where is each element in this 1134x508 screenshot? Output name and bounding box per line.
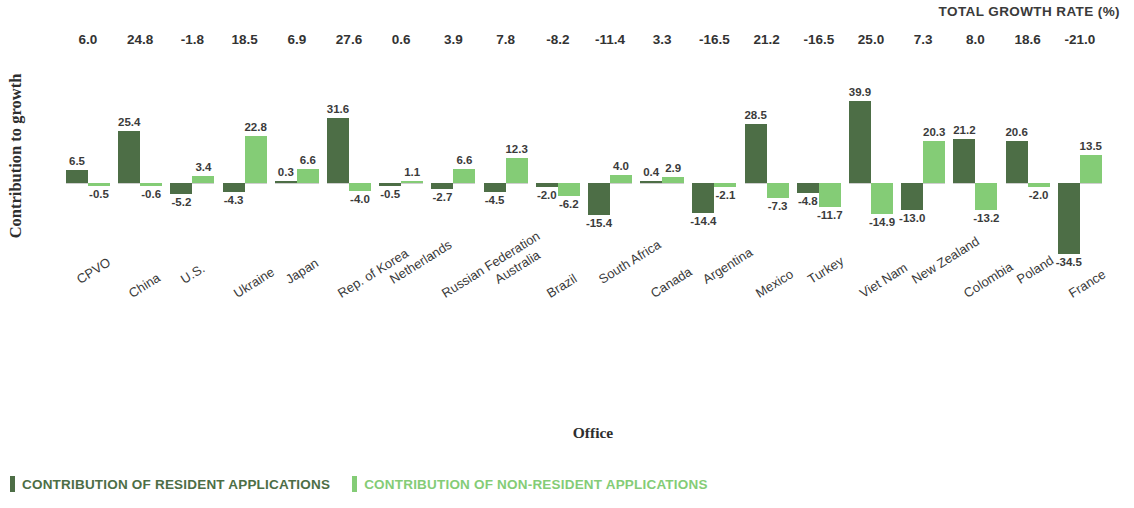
zero-baseline — [275, 183, 319, 184]
bar-group: 3.30.42.9 — [640, 24, 684, 272]
bar-non-resident[interactable] — [349, 183, 371, 191]
bar-resident[interactable] — [901, 183, 923, 210]
bar-group: -11.4-15.44.0 — [588, 24, 632, 272]
bar-label-resident: 28.5 — [738, 109, 774, 121]
bar-resident[interactable] — [431, 183, 453, 189]
bar-label-resident: -4.3 — [216, 194, 252, 206]
bar-group: -16.5-4.8-11.7 — [797, 24, 841, 272]
bar-label-resident: -5.2 — [163, 196, 199, 208]
bar-non-resident[interactable] — [140, 183, 162, 186]
bar-non-resident[interactable] — [767, 183, 789, 198]
total-growth-rate-value: -21.0 — [1058, 32, 1102, 47]
bar-group: 18.5-4.322.8 — [223, 24, 267, 272]
bar-non-resident[interactable] — [192, 176, 214, 183]
bar-non-resident[interactable] — [662, 177, 684, 183]
bar-label-non-resident: 12.3 — [499, 143, 535, 155]
total-growth-rate-value: -8.2 — [536, 32, 580, 47]
bar-resident[interactable] — [223, 183, 245, 192]
bar-non-resident[interactable] — [819, 183, 841, 207]
legend-label-non_resident: CONTRIBUTION OF NON-RESIDENT APPLICATION… — [364, 477, 707, 492]
bar-label-resident: 25.4 — [111, 116, 147, 128]
bar-group: -8.2-2.0-6.2 — [536, 24, 580, 272]
bar-resident[interactable] — [588, 183, 610, 215]
bar-group: 18.620.6-2.0 — [1006, 24, 1050, 272]
bar-non-resident[interactable] — [871, 183, 893, 214]
total-growth-rate-value: 3.9 — [431, 32, 475, 47]
bar-label-non-resident: -2.1 — [707, 189, 743, 201]
bar-non-resident[interactable] — [610, 175, 632, 183]
bar-resident[interactable] — [327, 118, 349, 183]
bar-non-resident[interactable] — [245, 136, 267, 183]
bar-resident[interactable] — [379, 183, 401, 186]
bar-label-non-resident: -6.2 — [551, 198, 587, 210]
bar-resident[interactable] — [1006, 141, 1028, 183]
x-axis-title: Office — [0, 424, 1134, 442]
bar-label-non-resident: 13.5 — [1073, 140, 1109, 152]
total-growth-rate-value: 24.8 — [118, 32, 162, 47]
bar-resident[interactable] — [640, 181, 662, 184]
bar-resident[interactable] — [953, 139, 975, 183]
bar-resident[interactable] — [66, 170, 88, 183]
total-growth-rate-value: 27.6 — [327, 32, 371, 47]
bar-non-resident[interactable] — [714, 183, 736, 187]
bar-non-resident[interactable] — [1028, 183, 1050, 187]
bar-label-resident: -0.5 — [372, 188, 408, 200]
bar-resident[interactable] — [170, 183, 192, 194]
legend-item-resident[interactable]: CONTRIBUTION OF RESIDENT APPLICATIONS — [10, 476, 330, 492]
total-growth-rate-value: 0.6 — [379, 32, 423, 47]
x-axis-title-text: Office — [573, 424, 613, 441]
bar-label-resident: -2.7 — [424, 191, 460, 203]
bar-label-resident: 39.9 — [842, 86, 878, 98]
bar-resident[interactable] — [1058, 183, 1080, 254]
bar-resident[interactable] — [745, 124, 767, 183]
bar-group: 27.631.6-4.0 — [327, 24, 371, 272]
bar-group: -21.0-34.513.5 — [1058, 24, 1102, 272]
bar-label-resident: 6.5 — [59, 155, 95, 167]
bar-label-resident: -4.5 — [477, 194, 513, 206]
bar-label-resident: -13.0 — [894, 212, 930, 224]
bar-resident[interactable] — [484, 183, 506, 192]
legend-label-resident: CONTRIBUTION OF RESIDENT APPLICATIONS — [22, 477, 330, 492]
bar-resident[interactable] — [118, 131, 140, 183]
bar-resident[interactable] — [275, 181, 297, 184]
bar-non-resident[interactable] — [88, 183, 110, 186]
bar-non-resident[interactable] — [453, 169, 475, 183]
bar-non-resident[interactable] — [297, 169, 319, 183]
bar-label-non-resident: 6.6 — [290, 154, 326, 166]
bar-non-resident[interactable] — [923, 141, 945, 183]
total-growth-rate-value: 6.9 — [275, 32, 319, 47]
chart-plot-area: 6.06.5-0.524.825.4-0.6-1.8-5.23.418.5-4.… — [60, 24, 1122, 272]
bar-group: 3.9-2.76.6 — [431, 24, 475, 272]
x-tick-label: China — [126, 270, 163, 301]
bar-label-resident: -34.5 — [1051, 256, 1087, 268]
bar-label-non-resident: 6.6 — [446, 154, 482, 166]
total-growth-rate-value: 25.0 — [849, 32, 893, 47]
bar-label-resident: -15.4 — [581, 217, 617, 229]
total-growth-rate-value: 3.3 — [640, 32, 684, 47]
total-growth-rate-title: TOTAL GROWTH RATE (%) — [939, 4, 1120, 19]
legend-item-non_resident[interactable]: CONTRIBUTION OF NON-RESIDENT APPLICATION… — [352, 476, 707, 492]
bar-group: 24.825.4-0.6 — [118, 24, 162, 272]
bar-non-resident[interactable] — [401, 181, 423, 184]
total-growth-rate-value: 7.3 — [901, 32, 945, 47]
total-growth-rate-value: -11.4 — [588, 32, 632, 47]
bar-non-resident[interactable] — [1080, 155, 1102, 183]
bar-resident[interactable] — [797, 183, 819, 193]
bar-resident[interactable] — [536, 183, 558, 187]
x-axis-tick-labels: CPVOChinaU.S.UkraineJapanRep. of KoreaNe… — [60, 272, 1122, 352]
bar-label-non-resident: -11.7 — [812, 209, 848, 221]
total-growth-rate-value: 21.2 — [745, 32, 789, 47]
total-growth-rate-value: 6.0 — [66, 32, 110, 47]
bar-label-non-resident: -13.2 — [968, 212, 1004, 224]
bar-non-resident[interactable] — [975, 183, 997, 210]
bar-group: 6.90.36.6 — [275, 24, 319, 272]
bar-non-resident[interactable] — [506, 158, 528, 183]
bar-resident[interactable] — [849, 101, 871, 183]
bar-label-resident: -14.4 — [685, 215, 721, 227]
bar-label-non-resident: 22.8 — [238, 121, 274, 133]
y-axis-title-text: Contribution to growth — [6, 74, 26, 239]
bar-non-resident[interactable] — [558, 183, 580, 196]
y-axis-title: Contribution to growth — [2, 36, 30, 276]
bar-group: 7.8-4.512.3 — [484, 24, 528, 272]
bar-group: -16.5-14.4-2.1 — [692, 24, 736, 272]
